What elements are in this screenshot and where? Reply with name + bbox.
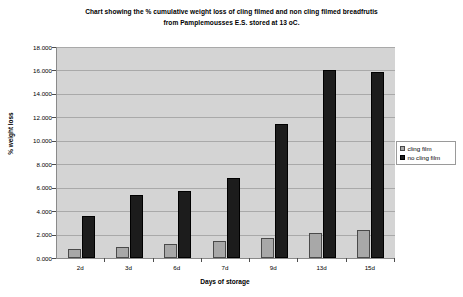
gridline bbox=[57, 47, 395, 48]
y-tick-label: 8.000 bbox=[18, 161, 52, 168]
bar-no-cling-film-3d bbox=[130, 195, 143, 258]
x-tick-label: 2d bbox=[56, 264, 104, 271]
x-tick-label: 13d bbox=[298, 264, 346, 271]
bar-no-cling-film-6d bbox=[178, 191, 191, 258]
bar-no-cling-film-7d bbox=[227, 178, 240, 258]
x-tick-mark bbox=[104, 258, 105, 262]
bar-no-cling-film-15d bbox=[371, 72, 384, 258]
y-tick-mark bbox=[52, 141, 56, 142]
chart-title: Chart showing the % cumulative weight lo… bbox=[40, 6, 423, 28]
y-tick-label: 2.000 bbox=[18, 231, 52, 238]
y-tick-mark bbox=[52, 188, 56, 189]
x-tick-label: 15d bbox=[346, 264, 394, 271]
x-tick-label: 6d bbox=[153, 264, 201, 271]
bar-cling-film-2d bbox=[68, 249, 81, 258]
bar-no-cling-film-9d bbox=[275, 124, 288, 258]
legend-swatch-icon-no-cling-film bbox=[400, 155, 405, 160]
bar-cling-film-13d bbox=[309, 233, 322, 258]
y-tick-mark bbox=[52, 47, 56, 48]
y-tick-label: 10.000 bbox=[18, 137, 52, 144]
y-tick-label: 12.000 bbox=[18, 114, 52, 121]
y-tick-mark bbox=[52, 70, 56, 71]
y-axis-title: % weight loss bbox=[7, 104, 14, 164]
gridline bbox=[57, 94, 395, 95]
chart-container: Chart showing the % cumulative weight lo… bbox=[0, 0, 463, 297]
plot-area bbox=[56, 47, 395, 259]
bar-cling-film-9d bbox=[261, 238, 274, 259]
bar-cling-film-7d bbox=[213, 241, 226, 258]
y-tick-mark bbox=[52, 117, 56, 118]
y-tick-mark bbox=[52, 211, 56, 212]
x-tick-mark bbox=[249, 258, 250, 262]
bar-no-cling-film-2d bbox=[82, 216, 95, 258]
legend-item-no-cling-film[interactable]: no cling film bbox=[400, 153, 453, 162]
legend-swatch-icon-cling-film bbox=[400, 146, 405, 151]
x-tick-mark bbox=[394, 258, 395, 262]
x-tick-mark bbox=[153, 258, 154, 262]
legend-item-cling-film[interactable]: cling film bbox=[400, 144, 453, 153]
gridline bbox=[57, 164, 395, 165]
x-tick-label: 3d bbox=[104, 264, 152, 271]
bar-no-cling-film-13d bbox=[323, 70, 336, 258]
bar-cling-film-3d bbox=[116, 247, 129, 258]
chart-title-line-1: Chart showing the % cumulative weight lo… bbox=[40, 6, 423, 17]
x-tick-label: 9d bbox=[249, 264, 297, 271]
chart-title-line-2: from Pamplemousses E.S. stored at 13 oC. bbox=[40, 17, 423, 28]
y-tick-mark bbox=[52, 258, 56, 259]
x-tick-mark bbox=[297, 258, 298, 262]
gridline bbox=[57, 141, 395, 142]
x-tick-mark bbox=[346, 258, 347, 262]
chart-legend: cling film no cling film bbox=[396, 141, 456, 165]
y-tick-label: 14.000 bbox=[18, 90, 52, 97]
x-tick-mark bbox=[201, 258, 202, 262]
legend-label-cling-film: cling film bbox=[408, 145, 432, 153]
gridline bbox=[57, 117, 395, 118]
y-tick-label: 16.000 bbox=[18, 67, 52, 74]
y-tick-label: 6.000 bbox=[18, 184, 52, 191]
bar-cling-film-15d bbox=[357, 230, 370, 258]
gridline bbox=[57, 70, 395, 71]
y-tick-mark bbox=[52, 164, 56, 165]
y-tick-mark bbox=[52, 94, 56, 95]
x-tick-label: 7d bbox=[201, 264, 249, 271]
y-axis: 0.0002.0004.0006.0008.00010.00012.00014.… bbox=[18, 40, 52, 265]
legend-label-no-cling-film: no cling film bbox=[408, 154, 441, 162]
bar-cling-film-6d bbox=[164, 244, 177, 258]
y-tick-label: 0.000 bbox=[18, 255, 52, 262]
y-tick-mark bbox=[52, 235, 56, 236]
y-tick-label: 18.000 bbox=[18, 44, 52, 51]
x-axis-title: Days of storage bbox=[56, 278, 394, 285]
y-tick-label: 4.000 bbox=[18, 208, 52, 215]
